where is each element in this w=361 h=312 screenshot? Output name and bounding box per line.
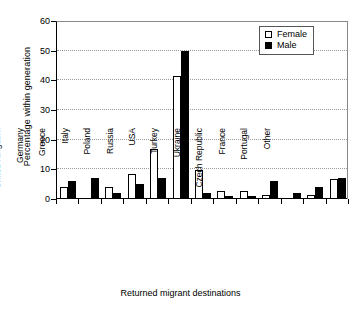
x-axis-tick-mark xyxy=(56,199,57,204)
bar-male xyxy=(338,178,346,199)
x-axis-tick-mark xyxy=(191,199,192,204)
chart-legend: FemaleMale xyxy=(259,26,314,55)
x-axis-tick-mark xyxy=(101,199,102,204)
x-axis-tick-mark xyxy=(78,199,79,204)
x-axis-category-label: Poland xyxy=(83,128,92,206)
x-axis-category-label: Portugal xyxy=(240,128,249,206)
bar-group xyxy=(330,22,346,199)
legend-item: Female xyxy=(265,29,307,40)
x-axis-category-label: France xyxy=(218,128,227,206)
x-axis-category-label: Germany xyxy=(16,128,25,206)
x-axis-category-label: United Kingdom xyxy=(0,128,2,206)
x-axis-tick-mark xyxy=(281,199,282,204)
x-axis-tick-mark xyxy=(168,199,169,204)
bar-female xyxy=(330,179,338,199)
y-axis-tick-label: 40 xyxy=(26,76,50,85)
x-axis-category-label: Czech Republic xyxy=(195,128,204,206)
y-axis-tick-label: 60 xyxy=(26,17,50,26)
x-axis-tick-mark xyxy=(213,199,214,204)
x-axis-tick-mark xyxy=(123,199,124,204)
x-axis-tick-mark xyxy=(146,199,147,204)
x-axis-category-label: USA xyxy=(128,128,137,206)
bar-male xyxy=(158,178,166,199)
x-axis-tick-mark xyxy=(348,199,349,204)
x-axis-category-label: Russia xyxy=(106,128,115,206)
x-axis-category-label: Italy xyxy=(61,128,70,206)
x-axis-category-label: Ukraine xyxy=(173,128,182,206)
legend-item-label: Female xyxy=(277,30,307,39)
bar-chart: Percentage within generation 01020304050… xyxy=(0,0,361,312)
y-axis-tick-label: 30 xyxy=(26,106,50,115)
x-axis-title: Returned migrant destinations xyxy=(0,288,361,299)
x-axis-category-label: Turkey xyxy=(150,128,159,206)
x-axis-tick-mark xyxy=(236,199,237,204)
open-square-icon xyxy=(265,31,272,38)
legend-item: Male xyxy=(265,40,307,51)
x-axis-tick-mark xyxy=(326,199,327,204)
x-axis-tick-mark xyxy=(303,199,304,204)
filled-square-icon xyxy=(265,42,272,49)
x-axis-category-label: Other xyxy=(263,128,272,206)
x-axis-tick-mark xyxy=(258,199,259,204)
y-axis-tick-label: 50 xyxy=(26,47,50,56)
x-axis-category-label: Greece xyxy=(38,128,47,206)
legend-item-label: Male xyxy=(277,41,297,50)
